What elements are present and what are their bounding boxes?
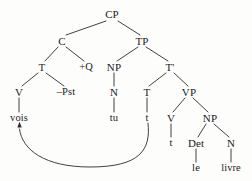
branch-cp-to-c	[66, 21, 106, 35]
node-q-feature: +Q	[79, 62, 93, 73]
branch-npobj-to-n	[214, 124, 229, 137]
branch-tbar-to-t	[149, 73, 166, 86]
branch-npobj-to-det	[198, 124, 206, 137]
word-livre: livre	[221, 163, 241, 174]
node-vp: VP	[182, 87, 196, 98]
syntax-tree-diagram: CP C TP T +Q NP T' V –Pst N T VP vois tu…	[0, 0, 252, 181]
branch-c-to-plusq	[66, 47, 84, 61]
branch-tp-to-tbar	[146, 47, 168, 61]
trace-t-head: t	[145, 113, 148, 124]
node-v-head: V	[167, 113, 175, 124]
branch-cp-to-tp	[118, 21, 140, 35]
branch-tp-to-np	[117, 47, 138, 61]
word-tu: tu	[110, 113, 118, 124]
node-tp: TP	[135, 36, 148, 47]
node-c: C	[58, 36, 65, 47]
branch-tbar-to-vp	[174, 73, 188, 86]
node-det: Det	[188, 138, 204, 149]
node-t-bar: T'	[166, 62, 175, 73]
node-cp: CP	[105, 9, 119, 20]
node-np-object: NP	[203, 113, 217, 124]
branch-vp-to-v	[173, 98, 185, 112]
branch-vp-to-np	[193, 98, 208, 112]
movement-arrow-group	[17, 122, 148, 167]
movement-arrow-path	[20, 123, 149, 167]
node-n-object: N	[227, 138, 235, 149]
node-n-subject: N	[110, 87, 118, 98]
word-le: le	[192, 163, 200, 174]
branch-c-to-t	[45, 47, 58, 61]
tree-lines-layer	[0, 0, 252, 181]
trace-v-head: t	[169, 138, 172, 149]
node-t-in-c: T	[39, 62, 46, 73]
node-t-head: T	[144, 87, 151, 98]
branch-t-to-v	[22, 73, 38, 86]
node-np-subject: NP	[107, 62, 121, 73]
node-v-in-t: V	[15, 87, 23, 98]
node-pst-feature: –Pst	[57, 87, 76, 98]
branch-t-to-pst	[46, 73, 64, 86]
word-vois: vois	[10, 113, 28, 124]
